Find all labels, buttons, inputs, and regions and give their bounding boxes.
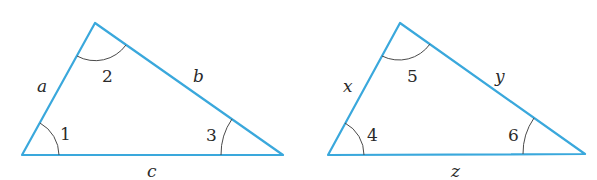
angle-4-arc bbox=[345, 123, 364, 155]
side-label-x: x bbox=[343, 76, 353, 96]
angle-5-arc bbox=[382, 44, 430, 60]
side-label-c: c bbox=[147, 161, 157, 180]
angle-3-arc bbox=[221, 119, 232, 155]
angle-2-arc bbox=[77, 45, 126, 61]
triangle-xyz: x y z 4 5 6 bbox=[328, 23, 585, 180]
two-triangles-diagram: a b c 1 2 3 x y z 4 5 6 bbox=[0, 0, 597, 180]
angle-label-5: 5 bbox=[407, 66, 418, 86]
angle-label-2: 2 bbox=[102, 66, 113, 86]
angle-label-6: 6 bbox=[508, 125, 519, 145]
angle-label-4: 4 bbox=[367, 125, 378, 145]
side-label-a: a bbox=[37, 76, 47, 96]
side-label-z: z bbox=[450, 161, 461, 180]
side-label-b: b bbox=[193, 66, 204, 86]
triangle-abc: a b c 1 2 3 bbox=[22, 23, 283, 180]
angle-1-arc bbox=[40, 123, 59, 155]
angle-6-arc bbox=[523, 118, 534, 154]
side-label-y: y bbox=[494, 66, 505, 86]
angle-label-3: 3 bbox=[206, 125, 217, 145]
angle-label-1: 1 bbox=[60, 124, 71, 144]
